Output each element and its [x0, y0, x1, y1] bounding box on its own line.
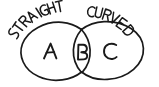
region-b-text: B [77, 44, 89, 45]
label-straight-text: STRAIGHT [10, 6, 80, 7]
region-letter-a [44, 44, 56, 59]
region-c-text: C [104, 44, 116, 45]
label-curved-text: CURVED [88, 6, 154, 7]
intersection-lens [73, 30, 90, 73]
venn-diagram-figure: STRAIGHT CURVED A B C [0, 0, 159, 87]
region-letter-c [104, 44, 117, 59]
region-a-text: A [44, 44, 56, 45]
left-circle-straight [21, 22, 82, 80]
region-letter-b [78, 45, 87, 60]
